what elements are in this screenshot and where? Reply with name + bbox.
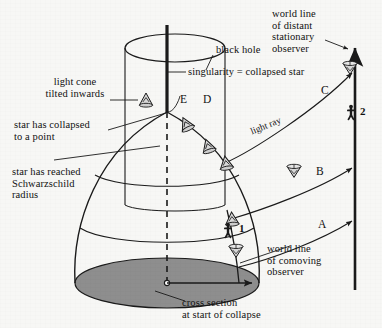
light-cone-comoving-start [229,244,243,257]
horizon-cylinder-top-rim [125,34,225,62]
light-cone-inside-horizon [139,93,152,107]
marker-observer-1: 1 [239,222,245,234]
label-world-line-distant-observer: world line of distant stationary observe… [272,8,334,54]
label-cross-section: cross section at start of collapse [182,297,292,320]
star-surface-right-generator [167,112,259,283]
marker-E: E [180,93,187,105]
leader-star-collapsed [108,113,166,130]
marker-observer-2: 2 [360,105,366,117]
leader-schwarzschild [54,146,160,160]
light-cone-surface-2 [200,137,217,154]
marker-D: D [203,93,211,105]
leader-event-E [167,96,180,112]
light-cone-at-E [177,115,195,133]
label-world-line-comoving-observer: world line of comoving observer [267,243,341,278]
label-star-collapsed-to-point: star has collapsed to a point [14,119,114,142]
light-ray-C [225,73,352,163]
marker-B: B [316,165,324,177]
horizon-cylinder-bottom-arc [125,205,225,211]
label-light-cone-tilted: light cone tilted inwards [38,76,112,99]
label-black-hole: black hole [216,44,260,56]
label-star-reached-schwarzschild: star has reached Schwarzschild radius [12,166,108,201]
distant-observer-figure [348,105,354,120]
light-cone-on-ray-B [287,164,301,177]
marker-C: C [321,84,329,96]
label-singularity: singularity = collapsed star [188,66,304,78]
marker-A: A [318,218,326,230]
